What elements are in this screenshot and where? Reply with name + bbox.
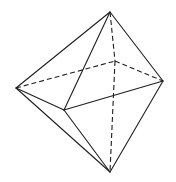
visible-edges	[16, 12, 163, 172]
hidden-edge-left-back	[16, 61, 115, 88]
octahedron-diagram	[0, 0, 176, 182]
visible-edge-top-front	[64, 12, 110, 110]
visible-edge-left-front	[16, 88, 64, 110]
visible-edge-front-bottom	[64, 110, 110, 172]
visible-edge-top-left	[16, 12, 110, 88]
hidden-edges	[16, 12, 163, 172]
hidden-edge-top-back	[110, 12, 115, 61]
visible-edge-top-right	[110, 12, 163, 81]
hidden-edge-back-bottom	[110, 61, 115, 172]
